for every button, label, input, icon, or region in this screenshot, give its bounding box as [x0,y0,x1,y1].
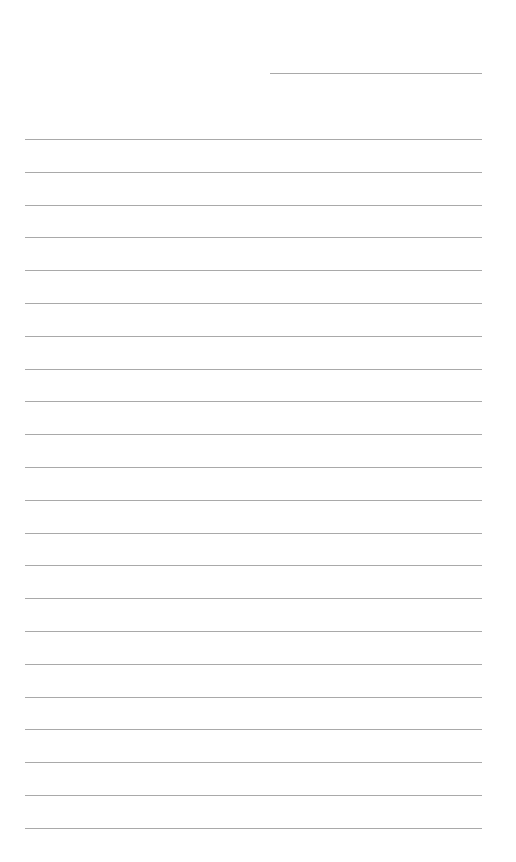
ruled-line [25,139,482,140]
ruled-line [25,631,482,632]
ruled-line [25,828,482,829]
ruled-line [25,303,482,304]
ruled-line [25,237,482,238]
ruled-line [25,434,482,435]
ruled-line [25,565,482,566]
ruled-line [25,270,482,271]
ruled-line [25,697,482,698]
ruled-line [25,533,482,534]
ruled-line [25,172,482,173]
ruled-line [25,729,482,730]
ruled-line [25,401,482,402]
ruled-line [25,205,482,206]
lined-paper-page [0,0,516,862]
ruled-line [25,598,482,599]
ruled-line [25,467,482,468]
ruled-line [25,369,482,370]
ruled-line [25,500,482,501]
ruled-line [25,336,482,337]
ruled-line [25,664,482,665]
ruled-line [25,795,482,796]
header-line [270,73,482,74]
ruled-line [25,762,482,763]
